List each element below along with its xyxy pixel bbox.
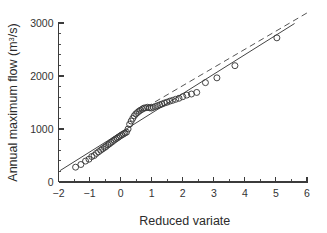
reference-line-dashed: [138, 13, 307, 112]
x-tick-label: 2: [180, 187, 186, 199]
y-tick-label: 1000: [30, 123, 54, 135]
y-axis-title: Annual maximum flow (m3/s): [6, 23, 20, 181]
x-tick-label: −1: [84, 187, 96, 199]
data-point: [214, 75, 220, 81]
y-tick-label: 2000: [30, 70, 54, 82]
x-tick-label: 0: [118, 187, 124, 199]
data-point: [274, 35, 280, 41]
y-tick-label: 0: [48, 176, 54, 188]
axis-labels: −2−101234560100020003000Reduced variateA…: [6, 17, 310, 228]
y-tick-label: 3000: [30, 17, 54, 29]
data-point: [194, 89, 200, 95]
x-axis-title: Reduced variate: [139, 214, 230, 228]
x-tick-label: 6: [304, 187, 310, 199]
trend-lines: [60, 13, 307, 171]
x-tick-label: 1: [149, 187, 155, 199]
data-point: [202, 80, 208, 86]
data-point: [232, 63, 238, 69]
x-tick-label: 3: [211, 187, 217, 199]
x-tick-label: 4: [242, 187, 248, 199]
data-point: [180, 94, 186, 100]
x-tick-label: 5: [273, 187, 279, 199]
gumbel-probability-plot: −2−101234560100020003000Reduced variateA…: [0, 0, 327, 233]
chart-figure: −2−101234560100020003000Reduced variateA…: [0, 0, 327, 233]
data-points: [73, 35, 280, 170]
x-tick-label: −2: [53, 187, 65, 199]
